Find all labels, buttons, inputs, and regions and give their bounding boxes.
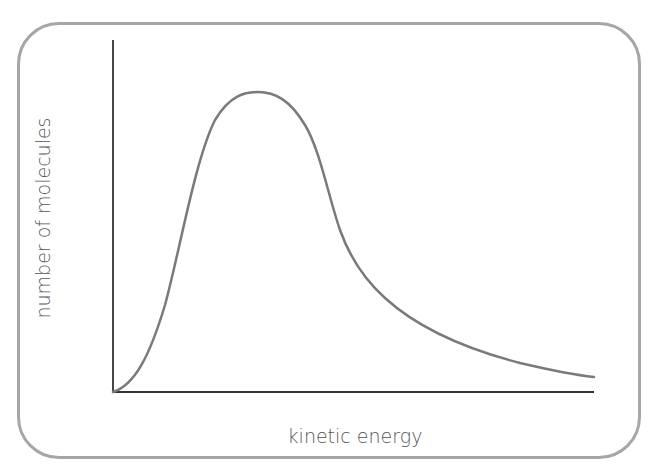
chart-plot-area <box>0 0 659 473</box>
x-axis-label: kinetic energy <box>288 425 423 447</box>
y-axis-label: number of molecules <box>32 117 54 318</box>
distribution-curve <box>113 92 594 392</box>
